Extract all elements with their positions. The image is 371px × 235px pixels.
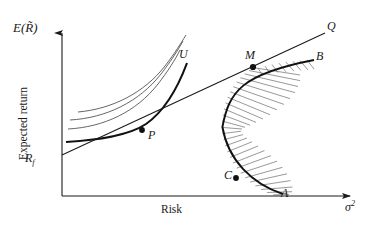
capital-market-line (62, 33, 325, 155)
x-axis-symbol: σ2 (345, 199, 355, 215)
line-q-label: Q (327, 19, 336, 34)
figure-canvas: E(R̃) Expected return Risk σ2 Rf P M C A… (0, 0, 371, 235)
y-axis-symbol-text: E(R̃) (13, 20, 38, 35)
efficient-frontier-curve (222, 60, 314, 194)
indifference-curve-2 (70, 41, 183, 120)
point-p-marker (139, 127, 145, 133)
point-a-label: A (281, 186, 288, 201)
point-b-label: B (316, 49, 323, 64)
risk-free-rate-subscript: f (32, 158, 34, 167)
point-m-label: M (245, 48, 255, 63)
diagram-svg (0, 0, 371, 235)
point-m-marker (250, 64, 256, 70)
indifference-curve-1 (68, 50, 180, 129)
feasible-region-hatching (222, 60, 314, 195)
utility-curve-label: U (179, 47, 188, 62)
y-axis-symbol: E(R̃) (13, 20, 38, 36)
x-axis-title: Risk (161, 203, 182, 215)
point-p-label: P (148, 128, 155, 143)
y-axis-title: Expected return (17, 87, 29, 160)
point-c-label: C (224, 168, 232, 183)
indifference-curve-U (66, 63, 187, 142)
risk-free-rate-label: Rf (25, 151, 35, 167)
point-c-marker (233, 175, 239, 181)
x-axis-symbol-exponent: 2 (351, 199, 355, 208)
